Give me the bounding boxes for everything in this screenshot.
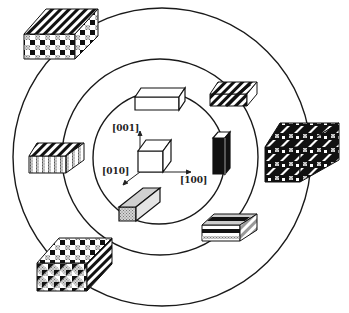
unit-cube	[138, 140, 171, 172]
checker-block	[24, 9, 98, 59]
tall-rod-block	[213, 132, 230, 174]
mosaic-block	[37, 238, 112, 291]
chevron-block	[210, 82, 257, 106]
domain-diagram: [001] [010] [100]	[0, 0, 349, 313]
grey-bar-block	[119, 188, 160, 221]
axis-label-010: [010]	[102, 166, 129, 176]
vertical-stripe-block	[29, 143, 84, 173]
herringbone-block	[265, 123, 339, 182]
striped-plate-block	[202, 214, 257, 241]
axis-label-100: [100]	[180, 175, 207, 185]
axis-label-001: [001]	[112, 123, 139, 133]
flat-plate-block	[135, 88, 185, 110]
